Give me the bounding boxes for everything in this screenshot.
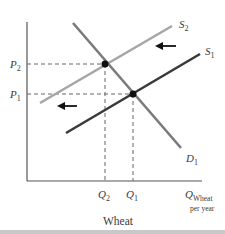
label-s2: S2 <box>179 18 189 33</box>
label-q1: Q1 <box>126 188 138 203</box>
diagram-title: Wheat <box>103 215 134 227</box>
label-q2: Q2 <box>98 188 110 203</box>
label-p1: P1 <box>9 88 21 103</box>
arrow-left-icon <box>155 42 163 50</box>
label-q-wheat: QWheat <box>185 188 213 203</box>
equilibrium-point-e1 <box>130 91 137 98</box>
label-p2: P2 <box>9 58 21 73</box>
label-per-year: per year <box>190 204 215 213</box>
arrow-left-icon <box>57 102 65 110</box>
equilibrium-point-e2 <box>102 61 109 68</box>
label-s1: S1 <box>205 45 215 60</box>
shift-arrow-upper <box>155 42 176 50</box>
bottom-divider <box>0 230 225 234</box>
supply-demand-diagram: S2 S1 D1 P2 P1 Q2 Q1 QWheat per year Whe… <box>0 0 225 234</box>
shift-arrow-lower <box>57 102 77 110</box>
demand-curve-d1 <box>73 23 181 148</box>
label-d1: D1 <box>185 152 198 167</box>
